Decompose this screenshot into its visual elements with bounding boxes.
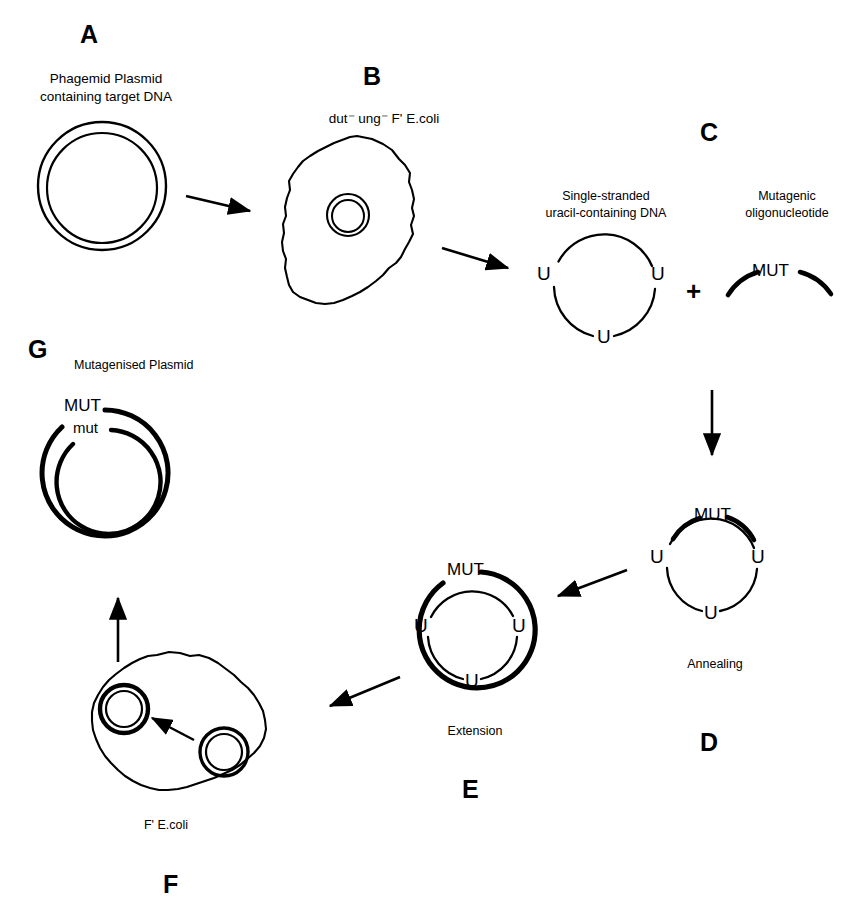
panel-e-uracil-right: U — [512, 615, 526, 637]
panel-c-ssdna-circle — [554, 234, 655, 336]
panel-d-annealed-circle — [667, 517, 757, 611]
panel-c-caption-right: Mutagenic oligonucleotide — [712, 188, 862, 222]
figure-canvas — [0, 0, 862, 912]
panel-letter-d: D — [700, 728, 718, 757]
panel-d-caption: Annealing — [645, 657, 785, 671]
panel-e-mut-label: MUT — [447, 560, 484, 580]
panel-g-outer-label: MUT — [64, 396, 101, 416]
panel-e-uracil-left: U — [414, 615, 428, 637]
panel-letter-g: G — [28, 335, 47, 364]
panel-c-uracil-right: U — [651, 263, 665, 285]
panel-c-caption-right-line1: Mutagenic — [758, 189, 816, 203]
arrow-d-to-e — [558, 570, 627, 596]
panel-c-caption-right-line2: oligonucleotide — [745, 206, 828, 220]
panel-c-caption-left-line2: uracil-containing DNA — [546, 206, 667, 220]
panel-letter-c: C — [700, 118, 718, 147]
panel-a-caption: Phagemid Plasmid containing target DNA — [26, 70, 186, 106]
panel-d-uracil-left: U — [650, 546, 664, 568]
panel-a-caption-line2: containing target DNA — [40, 89, 172, 104]
panel-b-cell-graphic — [282, 136, 414, 304]
panel-b-genotype: dut⁻ ung⁻ F' E.coli — [329, 111, 439, 126]
panel-e-caption: Extension — [405, 724, 545, 738]
panel-a-caption-line1: Phagemid Plasmid — [50, 71, 163, 86]
panel-g-caption: Mutagenised Plasmid — [74, 358, 254, 372]
panel-c-oligo-label: MUT — [752, 261, 789, 281]
panel-f-caption: F' E.coli — [96, 818, 236, 832]
panel-f-cell-graphic — [92, 652, 266, 790]
panel-e-uracil-bottom: U — [465, 670, 479, 692]
panel-c-plus-sign: + — [686, 276, 701, 307]
panel-letter-e: E — [462, 775, 479, 804]
panel-c-uracil-bottom: U — [597, 326, 611, 348]
panel-g-mutagenised-plasmid — [42, 410, 168, 536]
panel-g-inner-label: mut — [73, 419, 98, 436]
panel-letter-a: A — [80, 20, 98, 49]
mutagenesis-workflow-figure: A Phagemid Plasmid containing target DNA… — [0, 0, 862, 912]
panel-c-caption-left-line1: Single-stranded — [562, 189, 650, 203]
panel-d-uracil-right: U — [751, 546, 765, 568]
panel-c-uracil-left: U — [537, 263, 551, 285]
panel-c-caption-left: Single-stranded uracil-containing DNA — [521, 188, 691, 222]
panel-a-plasmid-graphic — [38, 122, 166, 250]
panel-d-mut-label: MUT — [694, 505, 731, 525]
arrow-e-to-f — [330, 677, 400, 706]
panel-d-uracil-bottom: U — [704, 602, 718, 624]
arrow-a-to-b — [186, 196, 250, 211]
panel-letter-b: B — [363, 62, 381, 91]
panel-letter-f: F — [163, 870, 178, 899]
arrow-b-to-c — [442, 248, 508, 268]
panel-b-caption: dut⁻ ung⁻ F' E.coli — [284, 110, 484, 126]
